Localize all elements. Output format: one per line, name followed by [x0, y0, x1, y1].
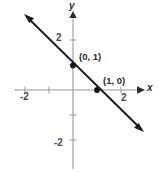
x-axis-label: x [147, 83, 153, 93]
graph-canvas [0, 0, 159, 172]
point-marker-y-intercept [70, 63, 76, 69]
plotted-line [29, 19, 139, 127]
y-axis-label: y [69, 1, 75, 11]
x-tick-label-neg2: -2 [20, 92, 29, 102]
y-axis-arrow-icon [69, 11, 76, 18]
y-tick-label-neg2: -2 [54, 138, 63, 148]
x-tick-label-pos2: 2 [121, 93, 127, 103]
x-axis-arrow-icon [137, 86, 145, 94]
linear-function-graph: y x -2 2 2 -2 (0, 1) (1, 0) [0, 0, 159, 172]
point-label-x-intercept: (1, 0) [103, 76, 125, 86]
y-tick-label-pos2: 2 [56, 33, 62, 43]
point-label-y-intercept: (0, 1) [79, 52, 101, 62]
point-marker-x-intercept [94, 87, 100, 93]
